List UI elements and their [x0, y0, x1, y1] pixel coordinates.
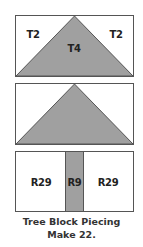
caption-title: Tree Block Piecing — [0, 216, 143, 228]
caption-quantity: Make 22. — [0, 229, 143, 241]
label-t4-center: T4 — [67, 43, 80, 54]
top-block-triangle-unit: T2 T4 T2 — [15, 15, 134, 77]
label-t2-right: T2 — [109, 29, 122, 40]
label-r9-center: R9 — [67, 177, 81, 188]
label-r29-right: R29 — [98, 177, 119, 188]
label-t2-left: T2 — [26, 29, 39, 40]
middle-block-triangle-unit — [15, 83, 134, 145]
bottom-block-trunk-unit: R29 R9 R29 — [15, 151, 134, 212]
triangle-shape — [16, 84, 133, 144]
label-r29-left: R29 — [31, 177, 52, 188]
